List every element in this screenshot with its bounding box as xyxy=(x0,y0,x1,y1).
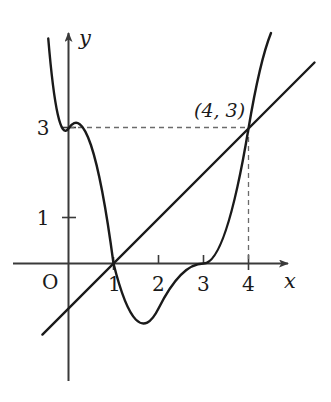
intersection-point-label: (4, 3) xyxy=(194,99,245,121)
x-tick-label-3: 3 xyxy=(197,272,210,296)
x-tick-label-2: 2 xyxy=(152,272,165,296)
x-tick-label-1: 1 xyxy=(108,272,121,296)
origin-label: O xyxy=(42,270,58,294)
y-tick-label-3: 3 xyxy=(37,116,50,140)
x-axis-label: x xyxy=(284,269,296,293)
y-axis-label: y xyxy=(78,26,92,50)
x-tick-label-4: 4 xyxy=(242,272,255,296)
y-tick-label-1: 1 xyxy=(37,206,50,230)
graph-figure: y x O 1 2 3 4 1 3 (4, 3) xyxy=(0,0,331,402)
